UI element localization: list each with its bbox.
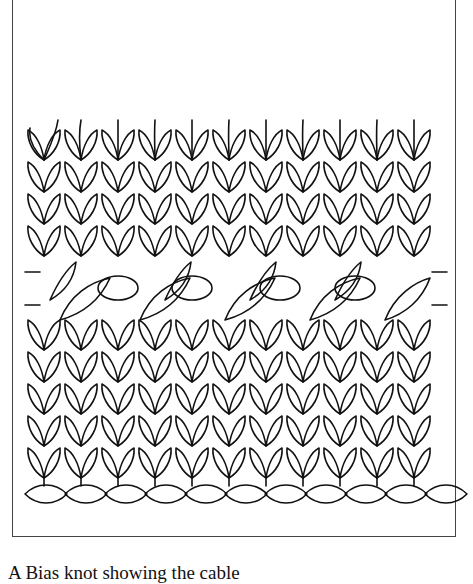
- lower-stitch-rows: [28, 320, 430, 486]
- upper-stitch-rows: [28, 120, 430, 256]
- cast-on-rope: [25, 485, 467, 503]
- figure-caption: A Bias knot showing the cable: [8, 562, 240, 584]
- cable-band: [25, 262, 447, 320]
